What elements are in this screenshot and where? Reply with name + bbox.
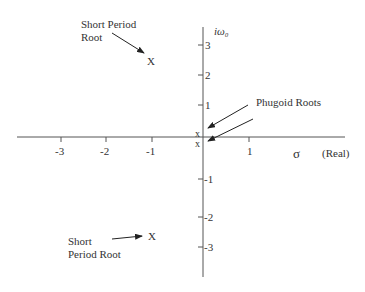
short-period-root-lower-marker: X [148,231,156,241]
real-axis-symbol: σ [293,146,300,162]
short-period-lower-arrow [112,236,142,239]
tick-imag-2: 2 [205,70,211,81]
real-axis-label: (Real) [322,147,349,159]
tick-real-neg3: -3 [55,146,64,157]
tick-real-neg2: -2 [100,146,109,157]
tick-real-neg1: -1 [146,146,155,157]
tick-real-1: 1 [247,146,253,157]
short-period-upper-label-line2: Root [81,31,102,44]
tick-imag-3: 3 [205,40,211,51]
phugoid-roots-label: Phugoid Roots [256,96,321,109]
tick-imag-neg3: -3 [204,242,213,253]
short-period-lower-label-line2: Period Root [68,248,121,261]
tick-imag-1: 1 [205,100,211,111]
tick-imag-neg2: -2 [204,212,213,223]
imaginary-axis-label: iω₀ [214,25,229,37]
tick-imag-neg1: -1 [204,174,213,185]
short-period-upper-label-line1: Short Period [81,18,136,31]
short-period-upper-arrow [112,33,144,53]
phugoid-root-lower-marker: x [195,139,200,149]
phugoid-arrow-lower [208,119,253,141]
short-period-root-upper-marker: X [147,56,155,66]
short-period-lower-label-line1: Short [68,235,92,248]
